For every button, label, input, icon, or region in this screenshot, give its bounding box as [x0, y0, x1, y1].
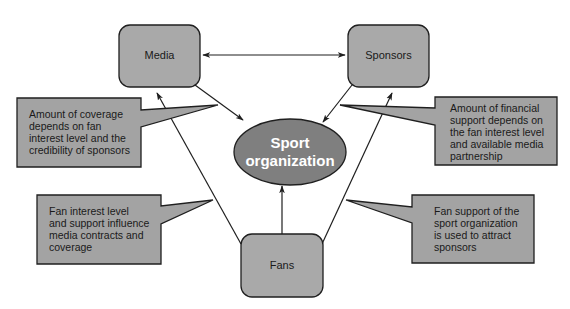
edge-sponsors-to-center [323, 85, 352, 122]
fans-label: Fans [270, 259, 295, 271]
node-media: Media [119, 25, 200, 87]
callout-financial-support: Amount of financial support depends on t… [340, 97, 557, 165]
callout-media-coverage: Amount of coverage depends on fan intere… [17, 98, 218, 167]
callout-financial-support-line1: Amount of financial [450, 102, 539, 114]
callout-media-coverage-line3: interest level and the [29, 132, 126, 144]
callout-fan-support-line4: sponsors [434, 241, 477, 253]
callout-fan-support: Fan support of the sport organization is… [346, 195, 534, 263]
callout-media-coverage-line4: credibility of sponsors [29, 144, 130, 156]
callout-fan-influence-line3: media contracts and [49, 229, 144, 241]
edge-media-to-center [195, 85, 243, 120]
callout-fan-influence-line4: coverage [49, 241, 92, 253]
sponsors-label: Sponsors [365, 49, 412, 61]
center-label-line1: Sport [270, 134, 309, 151]
callout-fan-influence-line1: Fan interest level [49, 205, 129, 217]
node-sport-organization: Sport organization [234, 119, 346, 185]
node-fans: Fans [241, 234, 323, 297]
node-sponsors: Sponsors [348, 25, 429, 87]
callout-financial-support-line5: partnership [450, 150, 503, 162]
callout-financial-support-line2: support depends on [450, 114, 543, 126]
callout-fan-influence-line2: and support influence [49, 217, 150, 229]
callout-media-coverage-line2: depends on fan [29, 120, 102, 132]
callout-fan-influence: Fan interest level and support influence… [37, 195, 213, 264]
callout-financial-support-line4: and available media [450, 138, 544, 150]
callout-fan-support-line2: sport organization [434, 217, 518, 229]
callout-financial-support-line3: the fan interest level [450, 126, 544, 138]
callout-fan-support-line3: is used to attract [434, 229, 511, 241]
callout-media-coverage-line1: Amount of coverage [29, 108, 123, 120]
center-label-line2: organization [245, 152, 334, 169]
sport-organization-diagram: Media Sponsors Fans Sport organization A… [0, 0, 570, 309]
media-label: Media [145, 49, 176, 61]
callout-fan-support-line1: Fan support of the [434, 205, 519, 217]
